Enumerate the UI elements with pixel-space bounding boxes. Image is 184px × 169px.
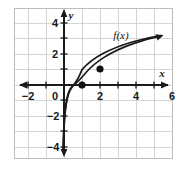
y-tick-label-neg4: −4	[47, 141, 60, 153]
x-tick-label-neg2: −2	[22, 90, 35, 102]
y-tick-label-2: 2	[52, 48, 58, 60]
x-tick-label-4: 4	[133, 90, 140, 102]
x-tick-label-2: 2	[97, 90, 103, 102]
y-axis-label: y	[67, 9, 74, 21]
y-tick-label-4: 4	[52, 17, 59, 29]
point-1-0	[78, 81, 85, 88]
function-label: f(x)	[113, 29, 129, 42]
x-tick-label-0: 0	[52, 90, 58, 102]
function-graph-figure: −2 0 2 4 6 4 2 −2 −4 y x f(x)	[0, 0, 184, 169]
point-2-1	[96, 65, 103, 72]
graph-canvas: −2 0 2 4 6 4 2 −2 −4 y x f(x)	[0, 0, 184, 169]
x-axis-label: x	[158, 67, 165, 79]
x-tick-label-6: 6	[169, 90, 175, 102]
y-tick-label-neg2: −2	[47, 110, 60, 122]
